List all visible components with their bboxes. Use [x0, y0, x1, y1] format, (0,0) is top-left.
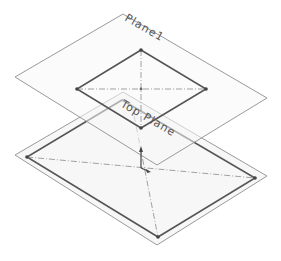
- vertex-point: [139, 48, 143, 52]
- vertex-point: [75, 87, 79, 91]
- origin-point: [140, 88, 143, 91]
- diagram-canvas: Top Plane Plane1: [0, 0, 281, 261]
- vertex-point: [25, 155, 29, 159]
- vertex-point: [139, 126, 143, 130]
- vertex-point: [253, 176, 257, 180]
- vertex-point: [204, 87, 208, 91]
- vertex-point: [156, 235, 160, 239]
